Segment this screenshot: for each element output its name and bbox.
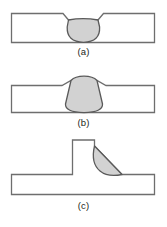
- panel-c-caption: (c): [0, 200, 167, 211]
- panel-a-caption: (a): [0, 46, 167, 57]
- panel-a-weld-bead: [67, 19, 99, 43]
- panel-b-group: [12, 76, 155, 112]
- panel-a-group: [12, 14, 155, 43]
- panel-c-plate: [12, 140, 155, 195]
- panel-c-group: [12, 140, 155, 195]
- weld-joint-figure: (a) (b) (c): [0, 0, 167, 227]
- panel-b-weld-bead: [65, 76, 102, 112]
- weld-diagram-svg: [0, 0, 167, 227]
- panel-b-caption: (b): [0, 117, 167, 128]
